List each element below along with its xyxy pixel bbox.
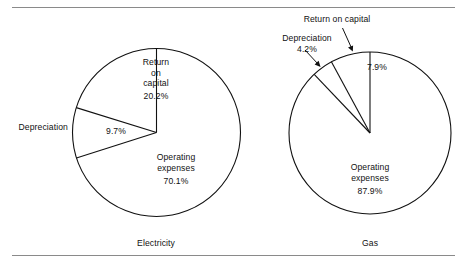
electricity-roc-label-line1: Return bbox=[143, 57, 169, 68]
gas-return-on-capital-value: 7.9% bbox=[367, 62, 387, 73]
electricity-roc-label-line2: on bbox=[143, 68, 169, 79]
electricity-depreciation-label: Depreciation bbox=[19, 122, 68, 133]
gas-chart-caption: Gas bbox=[362, 238, 378, 249]
gas-return-on-capital-leader bbox=[343, 28, 354, 52]
electricity-ope-label-line1: Operating bbox=[157, 152, 196, 163]
electricity-depreciation-value: 9.7% bbox=[106, 126, 126, 137]
electricity-chart-caption: Electricity bbox=[137, 238, 175, 249]
gas-operating-expenses-label: Operating expenses bbox=[351, 162, 390, 183]
gas-roc-leader-line bbox=[343, 28, 352, 48]
pie-charts-svg bbox=[0, 0, 465, 263]
electricity-roc-label-line3: capital bbox=[143, 78, 169, 89]
gas-slice-divider-dep-ope bbox=[314, 74, 370, 133]
gas-depreciation-label: Depreciation bbox=[282, 33, 331, 44]
gas-ope-label-line2: expenses bbox=[351, 173, 390, 184]
gas-slice-divider-roc-dep bbox=[331, 62, 370, 133]
electricity-return-on-capital-value: 20.2% bbox=[144, 91, 169, 102]
gas-operating-expenses-value: 87.9% bbox=[358, 186, 383, 197]
pie-chart-figure: Return on capital 20.2% Depreciation 9.7… bbox=[0, 0, 465, 263]
gas-return-on-capital-label: Return on capital bbox=[304, 14, 371, 25]
electricity-operating-expenses-value: 70.1% bbox=[164, 176, 189, 187]
electricity-operating-expenses-label: Operating expenses bbox=[157, 152, 196, 173]
electricity-ope-label-line2: expenses bbox=[157, 163, 196, 174]
gas-ope-label-line1: Operating bbox=[351, 162, 390, 173]
gas-depreciation-value: 4.2% bbox=[297, 44, 317, 55]
electricity-return-on-capital-label: Return on capital bbox=[143, 57, 169, 89]
